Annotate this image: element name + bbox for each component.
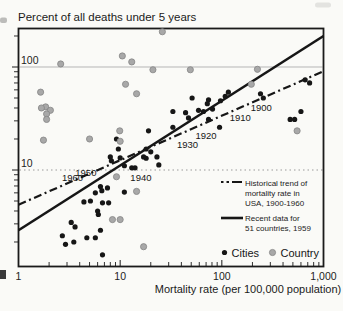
scatter-figure: Percent of all deaths under 5 years 1001… — [0, 0, 343, 311]
city-point — [93, 190, 98, 195]
y-tick-label: 100 — [21, 54, 39, 66]
city-point — [298, 109, 303, 114]
x-tick-label: 100 — [213, 270, 231, 282]
country-point — [187, 67, 193, 73]
scan-artifact — [315, 3, 331, 8]
country-point — [117, 128, 123, 134]
city-point — [98, 228, 103, 233]
legend-historical-text: Historical trend of — [245, 179, 308, 188]
country-point — [117, 138, 123, 144]
country-point — [254, 66, 260, 72]
city-point — [60, 233, 65, 238]
x-tick-label: 1,000 — [310, 270, 336, 282]
city-point — [99, 188, 104, 193]
year-label-1900: 1900 — [251, 102, 272, 113]
legend-recent-text: Recent data for — [245, 214, 300, 223]
city-point — [183, 110, 188, 115]
legend-historical-text: mortality rate in — [245, 189, 300, 198]
x-tick-label: 10 — [114, 270, 126, 282]
x-axis-label: Mortality rate (per 100,000 population) — [155, 283, 342, 295]
scan-artifact — [0, 270, 6, 279]
legend-cities-label: Cities — [232, 247, 260, 259]
country-point — [150, 67, 156, 73]
country-point — [159, 29, 165, 35]
city-point — [170, 109, 175, 114]
legend-historical-text: USA, 1900-1960 — [245, 199, 305, 208]
city-point — [93, 235, 98, 240]
country-point — [38, 89, 44, 95]
country-point — [44, 116, 50, 122]
city-point — [105, 185, 110, 190]
country-point — [248, 81, 254, 87]
plot-area: 100101101001,000190019101920193019401950… — [12, 29, 337, 283]
country-point — [40, 137, 46, 143]
city-point — [226, 90, 231, 95]
city-point — [292, 117, 297, 122]
city-point — [156, 162, 161, 167]
city-point — [88, 198, 93, 203]
country-point — [109, 216, 115, 222]
city-point — [303, 77, 308, 82]
city-point — [205, 101, 210, 106]
country-point — [129, 59, 135, 65]
city-point — [81, 199, 86, 204]
country-point — [86, 136, 92, 142]
city-point — [63, 242, 68, 247]
country-point — [58, 61, 64, 67]
country-point — [119, 53, 125, 59]
country-point — [294, 128, 300, 134]
country-point — [122, 81, 128, 87]
country-point — [38, 105, 44, 111]
legend-country-marker — [269, 249, 275, 255]
city-point — [96, 212, 101, 217]
x-tick-label: 1 — [16, 270, 22, 282]
city-point — [122, 190, 127, 195]
country-point — [140, 244, 146, 250]
city-point — [223, 94, 228, 99]
country-point — [117, 216, 123, 222]
year-label-1960: 1960 — [62, 172, 83, 183]
city-point — [217, 125, 222, 130]
year-label-1910: 1910 — [230, 112, 251, 123]
city-point — [261, 95, 266, 100]
city-point — [109, 158, 114, 163]
city-point — [132, 165, 137, 170]
legend-recent-text: 51 countries, 1959 — [245, 224, 311, 233]
city-point — [154, 154, 159, 159]
legend-cities-marker — [222, 250, 227, 255]
city-point — [206, 117, 211, 122]
year-label-1940: 1940 — [130, 172, 151, 183]
city-point — [186, 115, 191, 120]
city-point — [118, 155, 123, 160]
city-point — [146, 128, 151, 133]
country-point — [133, 91, 139, 97]
city-point — [210, 107, 215, 112]
city-point — [218, 98, 223, 103]
city-point — [71, 239, 76, 244]
city-point — [170, 125, 175, 130]
chart-title: Percent of all deaths under 5 years — [18, 11, 197, 23]
city-point — [100, 200, 105, 205]
city-point — [258, 91, 263, 96]
city-point — [72, 224, 77, 229]
city-point — [116, 146, 121, 151]
city-point — [190, 95, 195, 100]
city-point — [69, 220, 74, 225]
y-tick-label: 10 — [21, 157, 33, 169]
city-point — [288, 117, 293, 122]
year-label-1920: 1920 — [196, 130, 217, 141]
city-point — [307, 80, 312, 85]
year-label-1930: 1930 — [177, 139, 198, 150]
city-point — [100, 252, 105, 257]
city-point — [196, 108, 201, 113]
legend-country-label: Country — [281, 247, 320, 259]
city-point — [106, 200, 111, 205]
country-point — [133, 188, 139, 194]
scatter-chart: Percent of all deaths under 5 years 1001… — [0, 0, 343, 311]
city-point — [122, 163, 127, 168]
city-point — [148, 149, 153, 154]
country-point — [113, 174, 119, 180]
city-point — [201, 109, 206, 114]
scan-artifact — [0, 18, 7, 24]
city-point — [144, 146, 149, 151]
